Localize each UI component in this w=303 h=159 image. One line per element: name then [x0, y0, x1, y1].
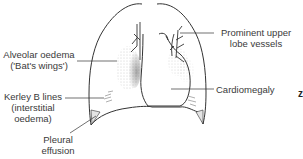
label-line: oedema): [0, 113, 66, 124]
label-line: Cardiomegaly: [216, 84, 275, 95]
label-line: effusion: [38, 145, 78, 156]
kerley-b-lines: [104, 91, 113, 102]
label-prominent-vessels: Prominent upper lobe vessels: [215, 27, 297, 49]
label-line: lobe vessels: [215, 38, 297, 49]
label-cardiomegaly: Cardiomegaly: [216, 84, 275, 95]
label-line: Alveolar oedema: [2, 49, 76, 60]
label-line: Pleural: [38, 134, 78, 145]
pleural-effusion-left: [91, 110, 100, 124]
label-line: Prominent upper: [215, 27, 297, 38]
label-pleural-effusion: Pleural effusion: [38, 134, 78, 156]
leader-pleural-effusion: [70, 116, 96, 133]
label-line: Kerley B lines: [0, 91, 66, 102]
diaphragm: [91, 106, 152, 125]
label-alveolar-oedema: Alveolar oedema ('Bat's wings'): [2, 49, 76, 71]
label-line: (interstitial: [0, 102, 66, 113]
label-kerley-b: Kerley B lines (interstitial oedema): [0, 91, 66, 124]
pleural-effusion-right: [196, 110, 203, 124]
cropped-edge-text: z: [298, 88, 303, 99]
label-line: ('Bat's wings'): [2, 60, 76, 71]
